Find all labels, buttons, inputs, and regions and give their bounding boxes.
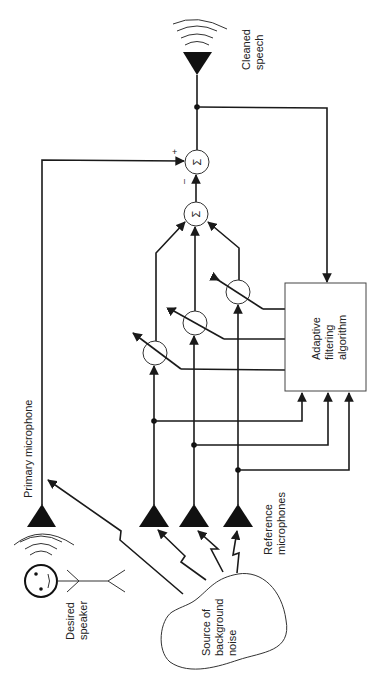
svg-text:microphones: microphones [275, 492, 287, 555]
svg-text:Adaptive: Adaptive [310, 317, 322, 360]
ref-1-tap [154, 393, 302, 421]
svg-text:Cleaned: Cleaned [240, 29, 252, 70]
noise-path-ref-3 [233, 531, 239, 573]
svg-text:speech: speech [253, 35, 265, 70]
noise-path-ref-1 [158, 530, 206, 580]
svg-text:Desired: Desired [64, 602, 76, 640]
svg-text:Σ: Σ [191, 158, 203, 165]
weight-2 [172, 308, 285, 339]
svg-text:Σ: Σ [190, 210, 202, 217]
noise-path-primary [48, 480, 183, 594]
svg-text:background: background [213, 599, 225, 657]
primary-signal-line [42, 160, 184, 505]
weight-3 [215, 278, 285, 309]
cleaned-speech-label: Cleaned speech [240, 29, 265, 70]
sound-waves-icon [173, 20, 227, 45]
svg-text:Source of: Source of [200, 608, 212, 656]
svg-text:filtering: filtering [323, 325, 335, 360]
svg-text:Reference: Reference [262, 504, 274, 555]
plus-sign: + [172, 147, 177, 157]
diagram-canvas: Cleaned speech Σ + – Σ [0, 0, 379, 679]
error-feedback-line [197, 107, 327, 282]
svg-text:speaker: speaker [77, 601, 89, 640]
ref-mic-2 [179, 504, 209, 527]
sum-output: Σ [185, 150, 209, 174]
primary-microphone-label: Primary microphone [22, 400, 34, 498]
output-speaker [173, 20, 227, 75]
ref-2-tap [194, 393, 328, 445]
sum-weights: Σ [184, 202, 208, 226]
svg-text:algorithm: algorithm [336, 315, 348, 360]
minus-sign: – [179, 179, 189, 184]
noise-source: Source of background noise [161, 573, 287, 669]
speech-waves-icon [14, 534, 74, 555]
ref-mic-3 [223, 504, 253, 527]
desired-speaker-label: Desired speaker [64, 601, 89, 640]
primary-mic [27, 504, 56, 527]
svg-text:Primary microphone: Primary microphone [22, 400, 34, 498]
noise-path-ref-2 [198, 531, 223, 572]
adaptive-filter: Adaptive filtering algorithm [285, 283, 366, 391]
branch-3-line [208, 222, 239, 280]
reference-microphones-label: Reference microphones [262, 492, 287, 555]
desired-speaker [14, 534, 125, 597]
ref-3-tap [238, 393, 349, 470]
svg-text:noise: noise [226, 630, 238, 656]
branch-1-line [156, 222, 185, 341]
ref-mic-1 [139, 504, 169, 527]
